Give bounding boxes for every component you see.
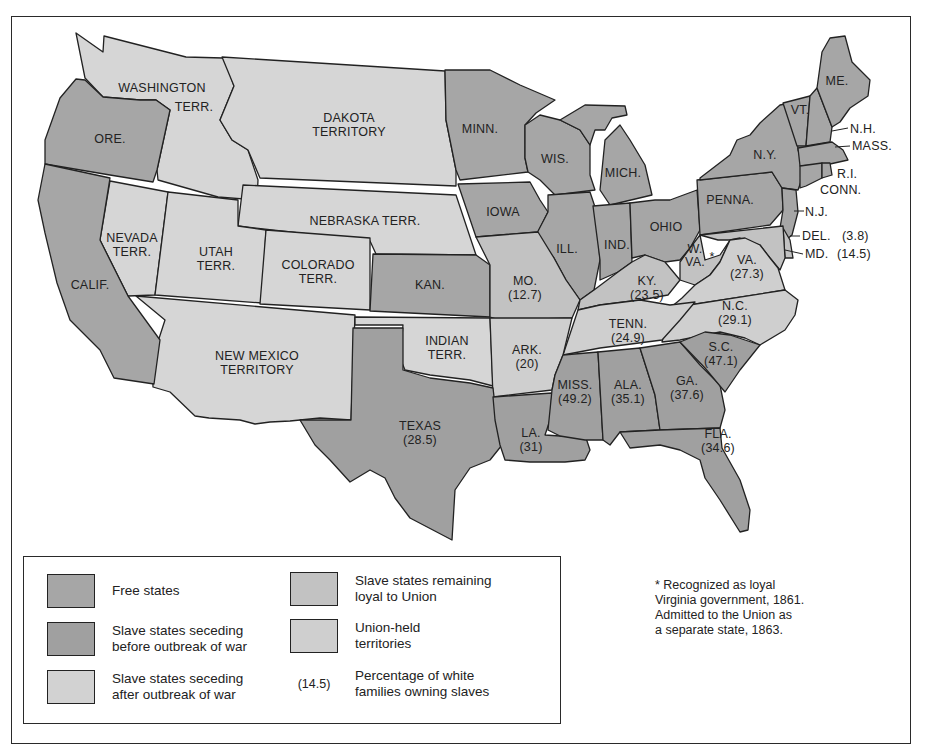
label-nc-pct: (29.1) bbox=[718, 313, 752, 327]
legend-item-percentage: (14.5) Percentage of white families owni… bbox=[290, 668, 489, 700]
label-del-pct: (3.8) bbox=[842, 229, 869, 243]
legend-label: Union-held territories bbox=[355, 620, 420, 652]
label-nh: N.H. bbox=[850, 122, 876, 136]
label-mo: MO. bbox=[513, 274, 537, 288]
legend-sample-percentage: (14.5) bbox=[290, 677, 338, 691]
label-va-pct: (27.3) bbox=[730, 267, 764, 281]
label-tenn: TENN. bbox=[609, 317, 648, 331]
label-ark: ARK. bbox=[512, 343, 542, 357]
label-tenn-pct: (24.9) bbox=[611, 331, 645, 345]
legend-swatch-seceding-after bbox=[47, 670, 95, 704]
label-wva-footnote-star: * bbox=[709, 250, 714, 264]
region-ri[interactable] bbox=[822, 163, 832, 178]
map-legend: Free states Slave states seceding before… bbox=[23, 556, 561, 724]
label-texas: TEXAS bbox=[399, 419, 441, 433]
label-utah: UTAH bbox=[199, 245, 233, 259]
legend-item-seceding-before: Slave states seceding before outbreak of… bbox=[47, 622, 247, 656]
label-wis: WIS. bbox=[541, 152, 569, 166]
label-fla-pct: (34.6) bbox=[701, 441, 735, 455]
label-dakota: DAKOTA bbox=[323, 111, 375, 125]
label-ark-pct: (20) bbox=[515, 357, 538, 371]
legend-item-seceding-after: Slave states seceding after outbreak of … bbox=[47, 670, 243, 704]
label-colorado-terr: TERR. bbox=[299, 272, 338, 286]
label-ohio: OHIO bbox=[650, 220, 683, 234]
label-md: MD. bbox=[805, 247, 829, 261]
legend-label: Percentage of white families owning slav… bbox=[355, 668, 489, 700]
label-wva-2: VA. bbox=[685, 255, 705, 269]
label-ga-pct: (37.6) bbox=[670, 388, 704, 402]
label-ala: ALA. bbox=[614, 378, 642, 392]
label-ky: KY. bbox=[637, 274, 656, 288]
label-new-mexico: NEW MEXICO bbox=[215, 349, 299, 363]
label-texas-pct: (28.5) bbox=[403, 433, 437, 447]
label-miss-pct: (49.2) bbox=[558, 392, 592, 406]
label-kan: KAN. bbox=[415, 278, 445, 292]
legend-swatch-loyal-slave bbox=[290, 572, 338, 606]
label-del: DEL. bbox=[802, 229, 831, 243]
label-fla: FLA. bbox=[704, 427, 731, 441]
legend-swatch-territories bbox=[290, 619, 338, 653]
label-sc: S.C. bbox=[708, 340, 733, 354]
legend-swatch-free-states bbox=[47, 574, 95, 608]
legend-label: Slave states seceding before outbreak of… bbox=[112, 623, 247, 655]
label-la-pct: (31) bbox=[519, 440, 542, 454]
label-ny: N.Y. bbox=[753, 148, 777, 162]
label-indian-terr: TERR. bbox=[428, 348, 467, 362]
label-la: LA. bbox=[521, 426, 540, 440]
label-nc: N.C. bbox=[722, 299, 748, 313]
label-dakota-territory: TERRITORY bbox=[312, 125, 386, 139]
label-washington-terr: TERR. bbox=[175, 100, 214, 114]
label-new-mexico-territory: TERRITORY bbox=[220, 363, 294, 377]
label-nj: N.J. bbox=[805, 205, 828, 219]
label-utah-terr: TERR. bbox=[197, 259, 236, 273]
label-miss: MISS. bbox=[557, 378, 592, 392]
label-me: ME. bbox=[826, 74, 849, 88]
label-nebraska-terr: NEBRASKA TERR. bbox=[310, 214, 421, 228]
label-ore: ORE. bbox=[94, 132, 125, 146]
label-nevada: NEVADA bbox=[106, 231, 158, 245]
label-indian: INDIAN bbox=[425, 334, 469, 348]
legend-item-free-states: Free states bbox=[47, 574, 180, 608]
label-washington: WASHINGTON bbox=[118, 81, 205, 95]
label-conn: CONN. bbox=[820, 183, 861, 197]
label-mo-pct: (12.7) bbox=[508, 288, 542, 302]
footnote-west-virginia: * Recognized as loyal Virginia governmen… bbox=[655, 578, 855, 638]
label-ala-pct: (35.1) bbox=[611, 392, 645, 406]
label-penna: PENNA. bbox=[706, 193, 754, 207]
legend-label: Free states bbox=[112, 583, 180, 599]
label-colorado: COLORADO bbox=[281, 258, 354, 272]
label-va: VA. bbox=[737, 253, 757, 267]
label-wva-1: W. bbox=[688, 242, 703, 256]
legend-label: Slave states seceding after outbreak of … bbox=[112, 671, 243, 703]
label-minn: MINN. bbox=[462, 122, 498, 136]
label-mass: MASS. bbox=[852, 139, 892, 153]
label-iowa: IOWA bbox=[486, 205, 520, 219]
label-ri: R.I. bbox=[837, 167, 857, 181]
label-calif: CALIF. bbox=[71, 278, 110, 292]
label-ga: GA. bbox=[676, 374, 698, 388]
label-mich: MICH. bbox=[605, 166, 641, 180]
label-ind: IND. bbox=[604, 238, 630, 252]
label-ill: ILL. bbox=[556, 242, 578, 256]
legend-item-loyal-slave: Slave states remaining loyal to Union bbox=[290, 572, 492, 606]
label-md-pct: (14.5) bbox=[837, 247, 871, 261]
label-vt: VT. bbox=[791, 103, 810, 117]
region-conn[interactable] bbox=[800, 163, 822, 188]
label-ky-pct: (23.5) bbox=[630, 288, 664, 302]
label-nevada-terr: TERR. bbox=[113, 245, 152, 259]
legend-item-territories: Union-held territories bbox=[290, 619, 420, 653]
legend-label: Slave states remaining loyal to Union bbox=[355, 573, 492, 605]
legend-swatch-seceding-before bbox=[47, 622, 95, 656]
label-sc-pct: (47.1) bbox=[704, 354, 738, 368]
